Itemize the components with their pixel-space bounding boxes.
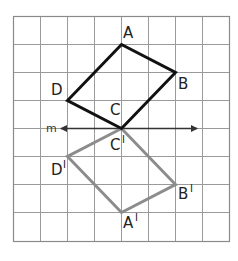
vertex-label-d-prime: D I — [51, 159, 66, 179]
vertex-label-c: C — [110, 101, 120, 119]
vertex-label-b-prime: B I — [178, 183, 193, 203]
svg-text:I: I — [122, 134, 125, 145]
svg-text:C: C — [110, 136, 120, 154]
vertex-label-d: D — [51, 81, 63, 99]
line-m-label: m — [46, 122, 57, 135]
svg-text:B: B — [178, 185, 188, 203]
svg-text:D: D — [51, 161, 63, 179]
svg-text:I: I — [190, 183, 193, 194]
vertex-label-c-prime: C I — [110, 134, 125, 154]
svg-text:I: I — [135, 212, 138, 223]
svg-text:A: A — [123, 214, 134, 232]
reflection-diagram: m A B C D C I D I B I A I — [0, 0, 238, 261]
vertex-label-b: B — [178, 75, 188, 93]
vertex-label-a: A — [123, 24, 134, 42]
svg-text:I: I — [63, 159, 66, 170]
vertex-label-a-prime: A I — [123, 212, 138, 232]
